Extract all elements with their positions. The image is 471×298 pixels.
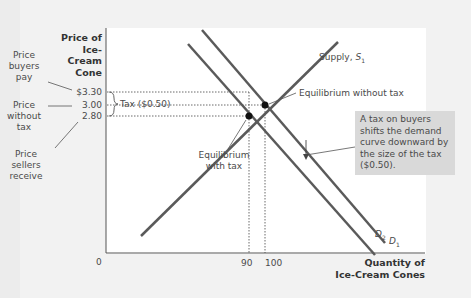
label-line: pay (2, 72, 46, 83)
x-axis-title-line: Quantity of (320, 257, 425, 269)
d2-symbol: D (375, 229, 382, 239)
y-axis-title: Price of Ice-Cream Cone (52, 32, 102, 78)
supply-subscript: 1 (361, 57, 365, 64)
label-line: without (2, 111, 46, 122)
x-axis-title-line: Ice-Cream Cones (320, 269, 425, 281)
y-axis-title-line: Ice-Cream (52, 44, 102, 67)
y-tick-3-30: $3.30 (66, 87, 102, 98)
d1-symbol: D (389, 236, 396, 246)
origin-label: 0 (96, 257, 102, 268)
supply-curve (141, 42, 338, 236)
y-axis-title-line: Price of (52, 32, 102, 44)
label-line: Price (4, 149, 48, 160)
x-tick-90: 90 (241, 258, 252, 269)
label-line: Equilibrium (194, 150, 254, 161)
supply-label-text: Supply, (319, 52, 355, 62)
price-without-tax-label: Price without tax (2, 100, 46, 133)
x-tick-100: 100 (265, 258, 282, 269)
label-line: tax (2, 122, 46, 133)
tax-brace-icon (109, 92, 118, 116)
label-line: buyers (2, 61, 46, 72)
equilibrium-without-tax-label: Equilibrium without tax (299, 88, 404, 99)
equilibrium-with-tax-label: Equilibrium with tax (194, 150, 254, 172)
label-line: Price (2, 100, 46, 111)
price-sellers-receive-label: Price sellers receive (4, 149, 48, 182)
tax-shift-note: A tax on buyers shifts the demand curve … (355, 111, 455, 175)
equilibrium-with-tax-point (246, 113, 253, 120)
arrow-down-icon (303, 154, 309, 160)
y-tick-3-00: 3.00 (66, 100, 102, 111)
d2-label: D2 (375, 229, 386, 243)
y-axis-title-line: Cone (52, 67, 102, 79)
supply-label: Supply, S1 (319, 52, 365, 66)
price-buyers-pay-label: Price buyers pay (2, 50, 46, 83)
x-axis-title: Quantity of Ice-Cream Cones (320, 257, 425, 281)
d1-label: D1 (389, 236, 400, 250)
label-line: with tax (194, 161, 254, 172)
y-tick-2-80: 2.80 (66, 111, 102, 122)
d2-subscript: 2 (382, 234, 386, 241)
tax-label: Tax ($0.50) (120, 99, 171, 110)
label-line: receive (4, 171, 48, 182)
guide-lines (107, 92, 265, 253)
d1-subscript: 1 (396, 241, 400, 248)
label-line: sellers (4, 160, 48, 171)
label-line: Price (2, 50, 46, 61)
equilibrium-without-tax-point (262, 102, 269, 109)
